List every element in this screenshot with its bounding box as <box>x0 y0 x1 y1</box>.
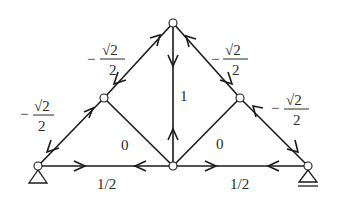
svg-text:2: 2 <box>293 112 301 128</box>
arrow-cd-to-c-icon <box>186 36 196 47</box>
arrow-bc-to-c-icon <box>150 35 160 46</box>
member-bf <box>104 98 173 166</box>
pin-support-icon <box>29 170 47 183</box>
svg-text:√2: √2 <box>225 42 241 58</box>
member-bc <box>104 23 173 98</box>
label-af: 1/2 <box>97 176 116 192</box>
svg-text:−: − <box>20 106 28 122</box>
node-d <box>236 94 244 102</box>
svg-text:√2: √2 <box>34 98 50 114</box>
svg-text:−: − <box>271 100 279 116</box>
node-b <box>100 94 108 102</box>
label-ab: − √2 2 <box>20 98 54 134</box>
svg-text:−: − <box>87 51 95 67</box>
label-fe: 1/2 <box>230 176 249 192</box>
roller-support-icon <box>298 170 318 186</box>
truss-diagram: − √2 2 − √2 2 − √2 2 − √2 2 1 0 0 1/2 1/… <box>0 0 340 215</box>
svg-text:2: 2 <box>232 62 240 78</box>
label-df: 0 <box>216 136 224 152</box>
label-cf: 1 <box>180 88 188 104</box>
node-c <box>169 19 177 27</box>
node-f <box>169 162 177 170</box>
svg-text:−: − <box>211 51 219 67</box>
svg-text:√2: √2 <box>286 92 302 108</box>
svg-text:√2: √2 <box>102 42 118 58</box>
label-bf: 0 <box>121 137 129 153</box>
truss-members <box>38 23 308 166</box>
node-e <box>304 162 312 170</box>
label-de: − √2 2 <box>271 92 309 128</box>
member-df <box>173 98 240 166</box>
svg-text:2: 2 <box>38 118 46 134</box>
svg-text:2: 2 <box>109 62 117 78</box>
member-cd <box>173 23 240 98</box>
node-a <box>34 162 42 170</box>
label-bc: − √2 2 <box>87 42 125 78</box>
